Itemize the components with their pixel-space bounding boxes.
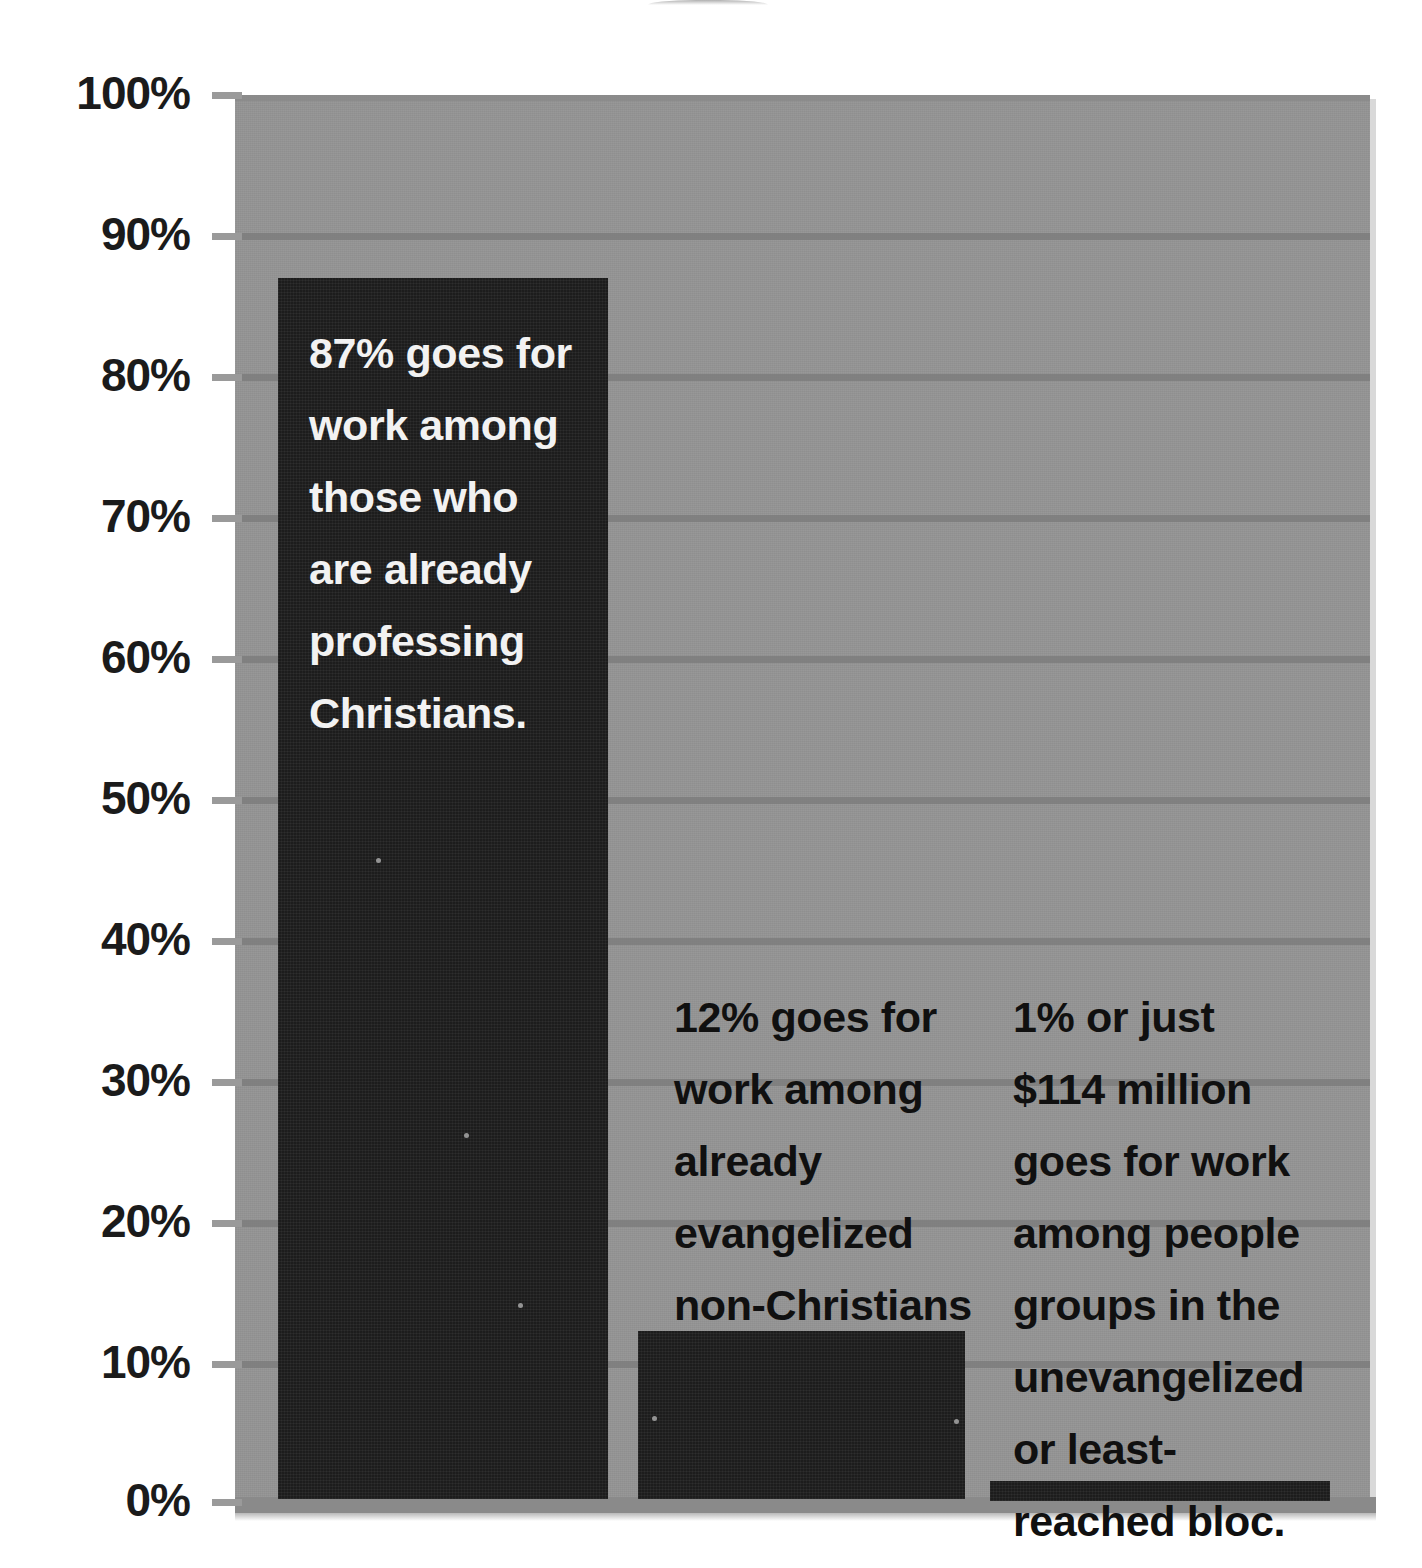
y-axis-label-80: 80% — [0, 352, 190, 398]
tick-60 — [212, 656, 242, 663]
tick-70 — [212, 515, 242, 522]
bar-evangelized-non-christians — [638, 1331, 965, 1499]
y-axis-label-50: 50% — [0, 775, 190, 821]
y-axis-label-100: 100% — [0, 70, 190, 116]
tick-90 — [212, 233, 242, 240]
tick-10 — [212, 1361, 242, 1368]
tick-40 — [212, 938, 242, 945]
y-axis-label-70: 70% — [0, 493, 190, 539]
y-axis-label-20: 20% — [0, 1198, 190, 1244]
gridline-100 — [235, 95, 1370, 101]
y-axis-label-30: 30% — [0, 1057, 190, 1103]
gridline-90 — [235, 233, 1370, 240]
tick-0 — [212, 1499, 242, 1506]
cropped-title-remnant — [648, 0, 768, 5]
tick-20 — [212, 1220, 242, 1227]
y-axis-label-40: 40% — [0, 916, 190, 962]
y-axis-label-10: 10% — [0, 1339, 190, 1385]
y-axis-label-60: 60% — [0, 634, 190, 680]
tick-100 — [212, 92, 242, 99]
tick-80 — [212, 374, 242, 381]
tick-30 — [212, 1079, 242, 1086]
bar-chart: 100% 90% 80% 70% 60% 50% 40% 30% 20% 10%… — [0, 0, 1422, 1568]
bar-annotation-unevangelized-least-reached: 1% or just $114 million goes for work am… — [1013, 981, 1343, 1557]
bar-annotation-evangelized-non-christians: 12% goes for work among already evangeli… — [674, 981, 974, 1341]
tick-50 — [212, 797, 242, 804]
plot-right-shadow — [1370, 99, 1376, 1509]
y-axis-label-90: 90% — [0, 211, 190, 257]
y-axis-label-0: 0% — [0, 1477, 190, 1523]
bar-annotation-professing-christians: 87% goes for work among those who are al… — [309, 317, 609, 749]
